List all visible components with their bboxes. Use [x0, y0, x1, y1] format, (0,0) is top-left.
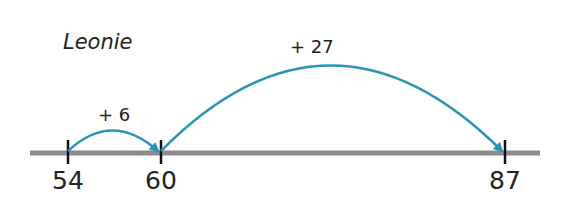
jump-arc-plus-27	[161, 66, 502, 152]
jump-label-plus-6: + 6	[98, 104, 130, 125]
tick-label-60: 60	[145, 166, 177, 195]
jump-arc-plus-6	[68, 131, 158, 152]
tick-label-54: 54	[52, 166, 84, 195]
number-line-diagram	[0, 0, 569, 210]
jump-label-plus-27: + 27	[290, 36, 334, 57]
tick-label-87: 87	[489, 166, 521, 195]
